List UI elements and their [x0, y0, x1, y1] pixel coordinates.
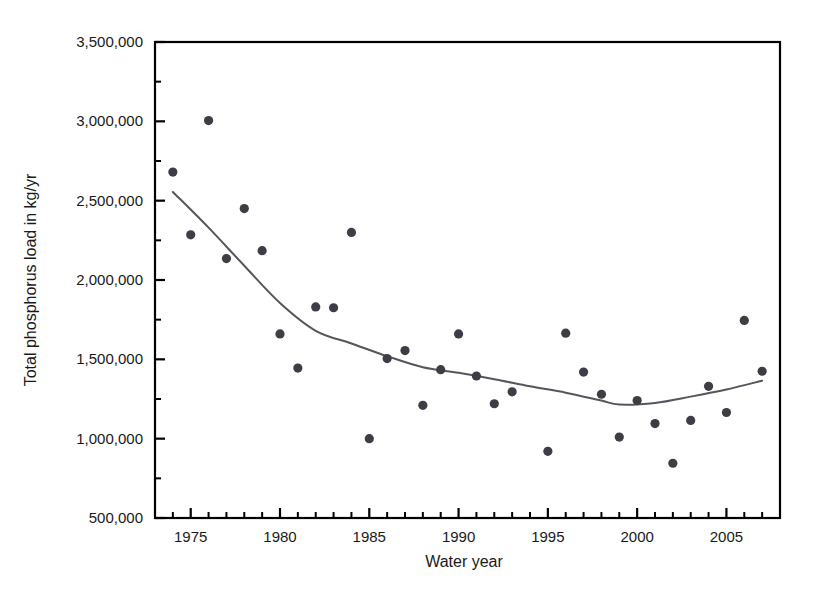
data-point: [293, 363, 302, 372]
data-point: [436, 365, 445, 374]
data-point: [686, 416, 695, 425]
data-point: [258, 246, 267, 255]
x-tick-label: 1980: [263, 528, 296, 545]
data-point: [383, 354, 392, 363]
data-point: [490, 399, 499, 408]
y-tick-label: 2,000,000: [76, 271, 143, 288]
data-point: [365, 434, 374, 443]
data-point: [454, 329, 463, 338]
data-point: [650, 419, 659, 428]
data-point: [472, 371, 481, 380]
x-axis-title: Water year: [425, 553, 503, 570]
y-axis-title: Total phosphorus load in kg/yr: [22, 173, 39, 386]
data-point: [758, 367, 767, 376]
data-point: [418, 401, 427, 410]
data-point: [204, 116, 213, 125]
data-point: [633, 396, 642, 405]
y-tick-label: 1,000,000: [76, 430, 143, 447]
data-point: [579, 367, 588, 376]
data-point: [275, 329, 284, 338]
data-point: [168, 168, 177, 177]
x-tick-label: 1975: [174, 528, 207, 545]
data-point: [347, 228, 356, 237]
data-point: [329, 303, 338, 312]
y-tick-label: 3,000,000: [76, 112, 143, 129]
data-point: [704, 382, 713, 391]
data-point: [722, 408, 731, 417]
y-tick-label: 500,000: [89, 509, 143, 526]
y-tick-label: 1,500,000: [76, 350, 143, 367]
x-tick-label: 1995: [531, 528, 564, 545]
data-point: [400, 346, 409, 355]
phosphorus-load-scatter-chart: 500,0001,000,0001,500,0002,000,0002,500,…: [0, 0, 817, 590]
chart-background: [0, 0, 817, 590]
y-tick-label: 2,500,000: [76, 192, 143, 209]
x-tick-label: 2000: [620, 528, 653, 545]
y-tick-label: 3,500,000: [76, 33, 143, 50]
figure-container: 500,0001,000,0001,500,0002,000,0002,500,…: [0, 0, 817, 590]
data-point: [561, 329, 570, 338]
data-point: [740, 316, 749, 325]
data-point: [615, 432, 624, 441]
x-tick-label: 2005: [710, 528, 743, 545]
data-point: [668, 459, 677, 468]
x-tick-label: 1990: [442, 528, 475, 545]
data-point: [597, 390, 606, 399]
x-tick-label: 1985: [353, 528, 386, 545]
data-point: [240, 204, 249, 213]
data-point: [543, 447, 552, 456]
data-point: [311, 302, 320, 311]
data-point: [508, 387, 517, 396]
data-point: [222, 254, 231, 263]
data-point: [186, 230, 195, 239]
